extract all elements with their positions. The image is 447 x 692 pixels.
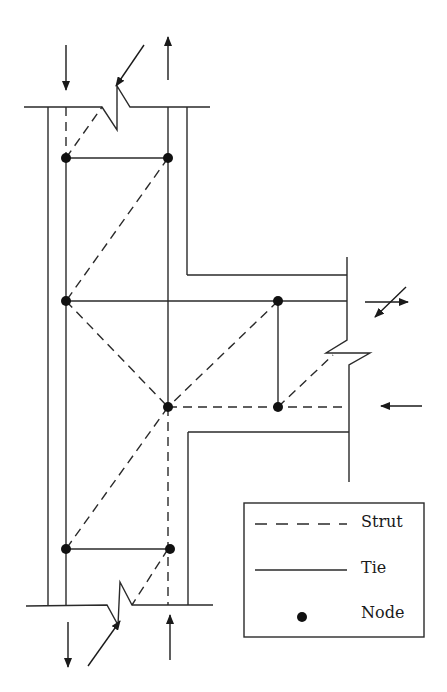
node-icon — [163, 153, 173, 163]
strut-diag-n5-n7 — [66, 407, 168, 549]
strut-bottom-diagonal — [132, 549, 168, 605]
strut-diag-n3-n5 — [66, 301, 168, 407]
legend-node-symbol — [297, 612, 307, 622]
legend-label-strut: Strut — [361, 512, 403, 531]
node-icon — [61, 153, 71, 163]
node-icon — [273, 402, 283, 412]
strut-top-diagonal — [66, 107, 102, 158]
node-icon — [163, 402, 173, 412]
arrow-diagonal-bottom-icon — [88, 621, 120, 666]
node-icon — [165, 544, 175, 554]
node-icon — [61, 544, 71, 554]
node-icon — [273, 296, 283, 306]
legend-label-node: Node — [361, 603, 404, 622]
strut-diag-n2-n3 — [66, 158, 168, 301]
bottom-cut-line — [26, 582, 213, 625]
strut-diag-n4-n5 — [168, 301, 278, 407]
nodes — [61, 153, 283, 554]
top-cut-line — [24, 86, 210, 130]
node-icon — [61, 296, 71, 306]
strut-beam-diagonal — [278, 355, 333, 407]
strut-and-tie-diagram — [0, 0, 447, 692]
arrow-diagonal-top-icon — [116, 45, 144, 86]
legend-label-tie: Tie — [361, 558, 386, 577]
beam-end-cut-line — [326, 257, 370, 482]
